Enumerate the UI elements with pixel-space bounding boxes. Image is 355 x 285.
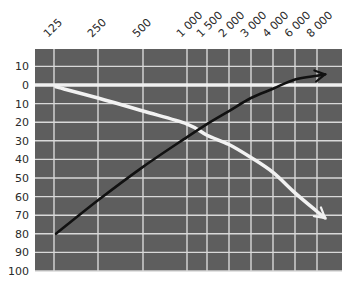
y-axis-tick-labels: 100102030405060708090100 <box>8 60 29 278</box>
y-tick-label: 40 <box>15 153 29 166</box>
y-tick-label: 30 <box>15 135 29 148</box>
audiogram-chart: 1252505001 0001 5002 0003 0004 0006 0008… <box>0 0 355 285</box>
y-tick-label: 50 <box>15 172 29 185</box>
x-tick-label: 250 <box>85 16 109 40</box>
y-tick-label: 90 <box>15 246 29 259</box>
y-tick-label: 70 <box>15 209 29 222</box>
y-tick-label: 0 <box>22 79 29 92</box>
y-tick-label: 20 <box>15 116 29 129</box>
y-tick-label: 80 <box>15 228 29 241</box>
x-tick-label: 125 <box>41 16 65 40</box>
y-tick-label: 10 <box>15 98 29 111</box>
x-tick-label: 500 <box>130 16 154 40</box>
y-tick-label: 100 <box>8 265 29 278</box>
y-tick-label: 10 <box>15 60 29 73</box>
y-tick-label: 60 <box>15 191 29 204</box>
x-axis-tick-labels: 1252505001 0001 5002 0003 0004 0006 0008… <box>41 9 335 40</box>
